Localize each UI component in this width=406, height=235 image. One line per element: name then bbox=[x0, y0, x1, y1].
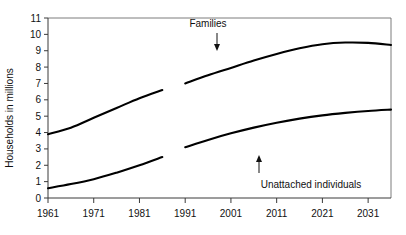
y-tick-label: 9 bbox=[35, 45, 41, 56]
families-annotation: Families bbox=[189, 18, 226, 51]
y-tick-label: 10 bbox=[30, 29, 42, 40]
x-tick-label: 2031 bbox=[357, 208, 380, 219]
families-annotation-label: Families bbox=[189, 18, 226, 29]
arrow-down-icon bbox=[214, 44, 220, 51]
y-tick-label: 3 bbox=[35, 143, 41, 154]
unattached-annotation: Unattached individuals bbox=[256, 155, 361, 190]
unattached-annotation-label: Unattached individuals bbox=[261, 179, 362, 190]
x-tick-label: 1991 bbox=[174, 208, 197, 219]
x-tick-label: 1961 bbox=[37, 208, 60, 219]
x-tick-label: 1981 bbox=[128, 208, 151, 219]
series-line-unattached-projected bbox=[185, 110, 391, 148]
y-tick-label: 8 bbox=[35, 62, 41, 73]
y-tick-label: 0 bbox=[35, 193, 41, 204]
series-line-unattached-historical bbox=[48, 157, 162, 188]
x-axis-ticks: 19611971198119912001201120212031 bbox=[37, 198, 380, 219]
y-axis-title: Households in millions bbox=[4, 68, 15, 168]
y-tick-label: 11 bbox=[31, 13, 42, 24]
series-lines bbox=[48, 42, 391, 188]
y-tick-label: 1 bbox=[35, 176, 41, 187]
x-tick-label: 1971 bbox=[83, 208, 106, 219]
chart-container: 01234567891011 1961197119811991200120112… bbox=[0, 0, 406, 235]
y-axis-ticks: 01234567891011 bbox=[30, 13, 48, 204]
arrow-up-icon bbox=[256, 155, 262, 162]
y-tick-label: 6 bbox=[35, 94, 41, 105]
x-tick-label: 2021 bbox=[311, 208, 334, 219]
y-tick-label: 2 bbox=[35, 160, 41, 171]
x-tick-label: 2011 bbox=[266, 208, 288, 219]
y-tick-label: 4 bbox=[35, 127, 41, 138]
series-line-families-historical bbox=[48, 90, 162, 134]
households-projection-line-chart: 01234567891011 1961197119811991200120112… bbox=[0, 0, 406, 235]
y-tick-label: 5 bbox=[35, 111, 41, 122]
y-tick-label: 7 bbox=[35, 78, 41, 89]
x-tick-label: 2001 bbox=[220, 208, 243, 219]
